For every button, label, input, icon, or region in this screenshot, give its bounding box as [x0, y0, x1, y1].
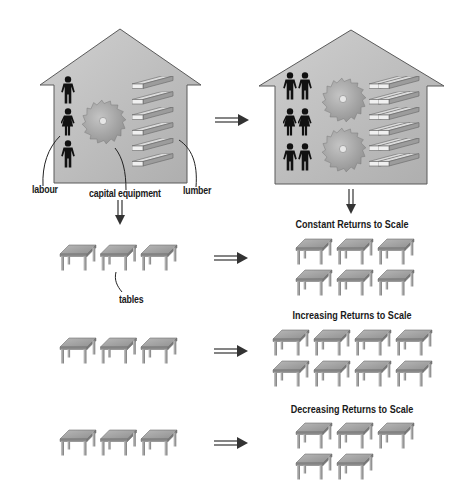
arrow-down-right	[346, 189, 356, 214]
table-icon	[60, 245, 96, 271]
arrow-increasing	[214, 345, 248, 357]
tables-callout-line	[115, 272, 122, 292]
table-icon	[378, 270, 414, 296]
table-icon	[101, 338, 137, 364]
table-icon	[296, 270, 332, 296]
table-icon	[141, 430, 177, 456]
arrow-double-inputs	[215, 114, 249, 126]
table-icon	[396, 361, 432, 387]
heading-increasing-returns: Increasing Returns to Scale	[293, 309, 412, 321]
table-icon	[337, 239, 373, 265]
input-tables-decreasing	[60, 430, 177, 456]
output-tables-constant	[296, 239, 414, 296]
heading-decreasing-returns: Decreasing Returns to Scale	[291, 403, 413, 415]
table-icon	[296, 454, 332, 480]
input-factory-house	[40, 29, 201, 190]
label-lumber: lumber	[183, 185, 211, 196]
table-icon	[314, 361, 350, 387]
output-tables-decreasing	[296, 423, 414, 480]
table-icon	[314, 330, 350, 356]
output-tables-increasing	[273, 330, 432, 387]
returns-to-scale-diagram: labour capital equipment lumber tables C…	[0, 0, 469, 502]
table-icon	[60, 338, 96, 364]
table-icon	[337, 423, 373, 449]
arrow-constant	[214, 252, 248, 264]
labour-workers	[60, 76, 74, 167]
table-icon	[337, 454, 373, 480]
table-icon	[273, 330, 309, 356]
label-tables: tables	[119, 294, 143, 305]
input-tables-constant	[60, 245, 177, 271]
input-tables-increasing	[60, 338, 177, 364]
table-icon	[60, 430, 96, 456]
table-icon	[355, 361, 391, 387]
table-icon	[355, 330, 391, 356]
heading-constant-returns: Constant Returns to Scale	[296, 218, 409, 230]
arrow-decreasing	[214, 437, 248, 449]
table-icon	[396, 330, 432, 356]
table-icon	[141, 245, 177, 271]
arrow-down-left	[115, 200, 125, 225]
table-icon	[296, 239, 332, 265]
table-icon	[101, 430, 137, 456]
label-labour: labour	[32, 184, 58, 195]
table-icon	[101, 245, 137, 271]
table-icon	[273, 361, 309, 387]
doubled-factory-house	[259, 30, 444, 184]
table-icon	[378, 423, 414, 449]
table-icon	[337, 270, 373, 296]
scenario-arrows	[214, 252, 248, 449]
diagram-canvas	[0, 0, 469, 502]
label-capital-equipment: capital equipment	[89, 188, 161, 199]
table-icon	[378, 239, 414, 265]
house-outline	[40, 29, 201, 183]
table-icon	[296, 423, 332, 449]
table-icon	[141, 338, 177, 364]
